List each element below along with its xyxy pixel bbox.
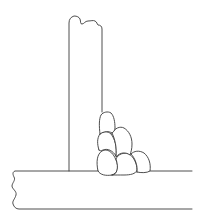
base-plate <box>12 171 192 209</box>
weld-diagram <box>0 0 208 224</box>
vertical-plate <box>69 16 102 171</box>
weld-beads <box>97 112 150 175</box>
weld-bead-6 <box>99 112 115 134</box>
